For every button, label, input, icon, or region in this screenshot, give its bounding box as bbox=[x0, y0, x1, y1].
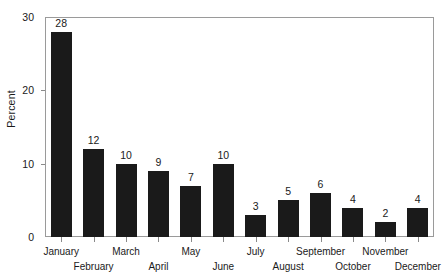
x-tick-mark bbox=[256, 237, 257, 242]
bar-value-label: 10 bbox=[110, 150, 142, 161]
x-axis-label: December bbox=[378, 262, 446, 272]
bar[interactable] bbox=[116, 164, 137, 237]
bar-value-label: 6 bbox=[305, 179, 337, 190]
bar[interactable] bbox=[148, 171, 169, 237]
x-tick-mark bbox=[61, 237, 62, 242]
y-tick-label: 20 bbox=[8, 85, 34, 96]
bar[interactable] bbox=[180, 186, 201, 237]
bar[interactable] bbox=[310, 193, 331, 237]
bar[interactable] bbox=[375, 222, 396, 237]
bar[interactable] bbox=[407, 208, 428, 237]
x-tick-mark bbox=[385, 237, 386, 242]
x-axis-label: November bbox=[345, 247, 425, 257]
bar-value-label: 3 bbox=[240, 201, 272, 212]
y-tick-label: 30 bbox=[8, 12, 34, 23]
x-tick-mark bbox=[94, 237, 95, 242]
bar[interactable] bbox=[278, 200, 299, 237]
bar-value-label: 4 bbox=[337, 194, 369, 205]
x-tick-mark bbox=[353, 237, 354, 242]
bar[interactable] bbox=[83, 149, 104, 237]
bar-value-label: 7 bbox=[175, 172, 207, 183]
bar[interactable] bbox=[342, 208, 363, 237]
y-tick-label: 10 bbox=[8, 159, 34, 170]
x-tick-mark bbox=[191, 237, 192, 242]
x-tick-mark bbox=[321, 237, 322, 242]
bar-value-label: 28 bbox=[45, 18, 77, 29]
bar-value-label: 2 bbox=[369, 208, 401, 219]
y-tick-label: 0 bbox=[8, 232, 34, 243]
bar-value-label: 4 bbox=[402, 194, 434, 205]
bar[interactable] bbox=[213, 164, 234, 237]
bar[interactable] bbox=[245, 215, 266, 237]
x-tick-mark bbox=[126, 237, 127, 242]
bar-value-label: 5 bbox=[272, 186, 304, 197]
x-tick-mark bbox=[418, 237, 419, 242]
x-tick-mark bbox=[223, 237, 224, 242]
bar-value-label: 9 bbox=[142, 157, 174, 168]
x-tick-mark bbox=[158, 237, 159, 242]
bar-value-label: 10 bbox=[207, 150, 239, 161]
bar-value-label: 12 bbox=[78, 135, 110, 146]
bar[interactable] bbox=[51, 32, 72, 237]
x-tick-mark bbox=[288, 237, 289, 242]
